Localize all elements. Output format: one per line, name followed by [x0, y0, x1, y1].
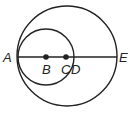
label-E: E — [119, 50, 128, 65]
point-B-dot — [43, 54, 49, 60]
label-A: A — [2, 50, 12, 65]
label-C: C — [61, 62, 71, 77]
point-C-dot — [63, 54, 69, 60]
label-D: D — [71, 62, 80, 77]
label-B: B — [42, 62, 51, 77]
geometry-diagram: A B C D E — [0, 0, 137, 113]
